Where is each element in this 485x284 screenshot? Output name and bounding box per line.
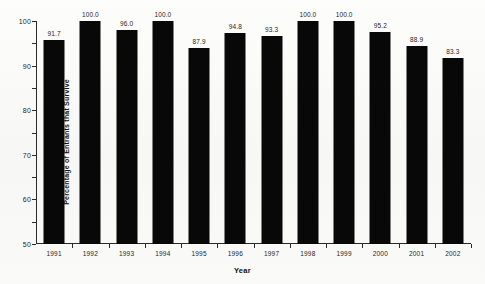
bar-value-label: 93.3 [265, 26, 278, 33]
bar-value-label: 83.3 [446, 48, 459, 55]
bar-value-label: 95.2 [374, 22, 387, 29]
x-axis-category-label: 2000 [373, 250, 388, 257]
x-axis-tick [399, 244, 400, 248]
x-axis-category-label: 1998 [300, 250, 315, 257]
bar-value-label: 96.0 [120, 20, 133, 27]
x-axis-category-label: 1997 [264, 250, 279, 257]
plot-area: 0102030405060708090100 91.71991100.01992… [36, 21, 471, 244]
bar [334, 21, 355, 244]
bar-group: 88.92001 [399, 21, 435, 244]
x-axis-category-label: 2002 [445, 250, 460, 257]
y-axis-tick-label: 80 [23, 107, 31, 114]
x-axis-tick [435, 244, 436, 248]
bar-group: 94.81996 [217, 21, 253, 244]
bar [442, 58, 463, 244]
bar-group: 100.01992 [72, 21, 108, 244]
x-axis-tick [254, 244, 255, 248]
x-axis-tick [181, 244, 182, 248]
bar-group: 100.01994 [145, 21, 181, 244]
bar-value-label: 100.0 [154, 11, 171, 18]
bar-value-label: 87.9 [193, 38, 206, 45]
bar-group: 93.31997 [254, 21, 290, 244]
bar-value-label: 100.0 [336, 11, 353, 18]
x-axis-tick [145, 244, 146, 248]
bar-value-label: 100.0 [82, 11, 99, 18]
x-axis-category-label: 2001 [409, 250, 424, 257]
x-axis-category-label: 1996 [228, 250, 243, 257]
bar [225, 33, 246, 244]
chart-screenshot: Percentage of Entrants that Survive 0102… [0, 0, 485, 284]
bar-group: 96.01993 [109, 21, 145, 244]
x-axis-category-label: 1993 [119, 250, 134, 257]
y-axis-tick-label: 50 [23, 241, 31, 248]
x-axis-title: Year [0, 266, 485, 275]
x-axis-tick [290, 244, 291, 248]
y-axis-tick [32, 244, 36, 245]
y-axis-tick-label: 60 [23, 196, 31, 203]
x-axis-category-label: 1994 [155, 250, 170, 257]
bar-group: 100.01998 [290, 21, 326, 244]
x-axis-category-label: 1991 [46, 250, 61, 257]
bar [261, 36, 282, 244]
x-axis-category-label: 1995 [191, 250, 206, 257]
x-axis-category-label: 1999 [336, 250, 351, 257]
bar-group: 100.01999 [326, 21, 362, 244]
y-axis-tick-label: 90 [23, 62, 31, 69]
bar [297, 21, 318, 244]
x-axis-tick [217, 244, 218, 248]
bar [152, 21, 173, 244]
bar [80, 21, 101, 244]
bar-group: 83.32002 [435, 21, 471, 244]
bar [189, 48, 210, 244]
bar-value-label: 94.8 [229, 23, 242, 30]
bar [116, 30, 137, 244]
x-axis-tick [326, 244, 327, 248]
bar-value-label: 91.7 [48, 30, 61, 37]
bar-value-label: 100.0 [299, 11, 316, 18]
x-axis-tick [471, 244, 472, 248]
bar-group: 87.91995 [181, 21, 217, 244]
x-axis-tick [362, 244, 363, 248]
y-axis-tick-label: 70 [23, 151, 31, 158]
x-axis-tick [72, 244, 73, 248]
y-axis-tick-label: 100 [19, 18, 31, 25]
bar-group: 95.22000 [362, 21, 398, 244]
bar [44, 40, 65, 244]
x-axis-tick [109, 244, 110, 248]
bar-group: 91.71991 [36, 21, 72, 244]
bar-value-label: 88.9 [410, 36, 423, 43]
bar [370, 32, 391, 244]
x-axis-category-label: 1992 [83, 250, 98, 257]
bar [406, 46, 427, 244]
